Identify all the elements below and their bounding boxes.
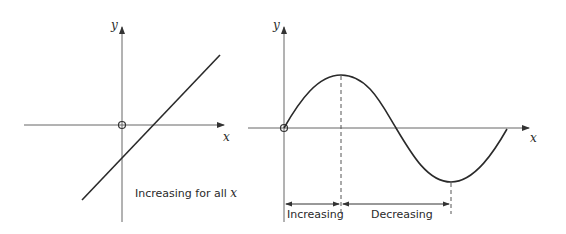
left-annotation: Increasing for all x — [135, 186, 237, 200]
left-graph: y x Increasing for all x — [24, 18, 237, 222]
decreasing-label: Decreasing — [371, 208, 433, 221]
right-x-label: x — [530, 131, 537, 145]
annotation-var: x — [230, 186, 237, 200]
annotation-text: Increasing for all — [135, 187, 230, 200]
right-graph: y x Increasing Decreasing — [248, 18, 537, 222]
diagram-canvas: y x Increasing for all x y x Increasing … — [0, 0, 566, 234]
increasing-line — [82, 55, 220, 200]
increasing-label: Increasing — [287, 208, 344, 221]
right-y-label: y — [272, 18, 280, 32]
left-y-label: y — [110, 18, 118, 32]
left-x-label: x — [223, 130, 230, 144]
